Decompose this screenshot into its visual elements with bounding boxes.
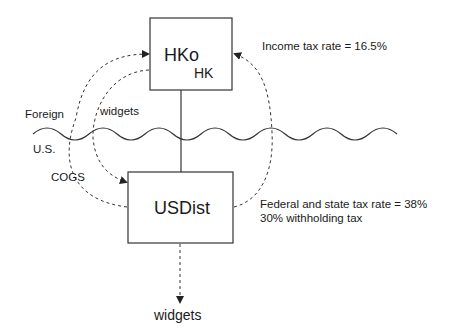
region-label-us: U.S. — [33, 143, 55, 155]
usdist-name: USDist — [154, 198, 210, 218]
widgets-flow-arrow — [93, 70, 149, 182]
hko-name: HKo — [164, 45, 199, 65]
right-payment-arrow — [234, 54, 272, 207]
hko-jurisdiction: HK — [194, 65, 214, 81]
usdist-tax-annotation-line2: 30% withholding tax — [260, 212, 363, 224]
cogs-flow-label: COGS — [51, 171, 85, 183]
widgets-flow-label: widgets — [99, 105, 139, 117]
usdist-tax-annotation-line1: Federal and state tax rate = 38% — [260, 198, 427, 210]
hko-tax-annotation: Income tax rate = 16.5% — [262, 40, 387, 52]
widgets-out-label: widgets — [153, 307, 201, 323]
region-label-foreign: Foreign — [25, 108, 64, 120]
border-wave-line — [33, 128, 397, 140]
tax-structure-diagram: HKo HK USDist Income tax rate = 16.5% Fe… — [0, 0, 453, 336]
